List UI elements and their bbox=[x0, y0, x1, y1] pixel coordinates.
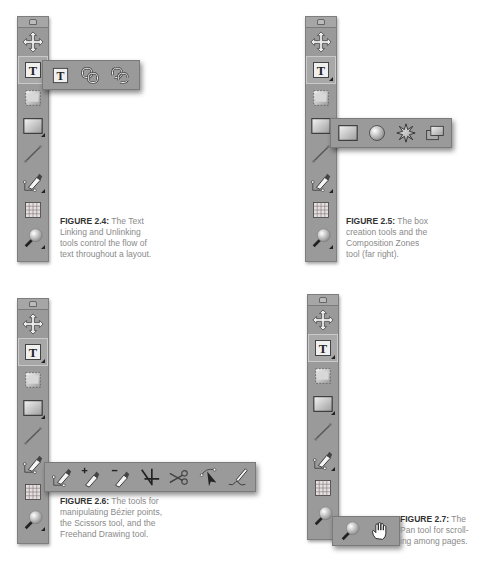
add-point-icon bbox=[80, 466, 102, 488]
scissors-icon bbox=[168, 466, 190, 488]
text-content-icon bbox=[51, 66, 70, 85]
text-t-icon bbox=[23, 342, 43, 362]
item-tool[interactable] bbox=[308, 306, 338, 334]
starburst-icon bbox=[396, 123, 416, 143]
select-point-icon bbox=[198, 466, 220, 488]
rectangle-icon bbox=[310, 115, 332, 137]
table-grid-icon bbox=[23, 482, 43, 502]
item-tool[interactable] bbox=[306, 28, 336, 56]
text-content-tool[interactable] bbox=[306, 56, 336, 84]
caption-text: tools control the flow of bbox=[60, 238, 147, 248]
table-tool[interactable] bbox=[308, 474, 338, 502]
figure-label: FIGURE 2.7: bbox=[400, 514, 449, 524]
line-icon bbox=[22, 143, 44, 165]
caption-text: The box bbox=[397, 216, 428, 226]
table-grid-icon bbox=[311, 200, 331, 220]
item-tool[interactable] bbox=[18, 310, 48, 338]
line-tool[interactable] bbox=[308, 418, 338, 446]
table-grid-icon bbox=[313, 478, 333, 498]
rectangle-box-flyout-tool[interactable] bbox=[335, 120, 360, 146]
text-linking-tool[interactable] bbox=[77, 62, 103, 88]
box-tools-flyout bbox=[330, 118, 452, 148]
figure-caption: FIGURE 2.4: The Text Linking and Unlinki… bbox=[60, 216, 180, 260]
palette-grip[interactable] bbox=[18, 299, 48, 310]
table-tool[interactable] bbox=[18, 196, 48, 224]
rectangle-box-tool[interactable] bbox=[18, 394, 48, 422]
palette-grip[interactable] bbox=[308, 295, 338, 306]
caption-text: ing among pages. bbox=[400, 536, 468, 546]
line-tool[interactable] bbox=[18, 422, 48, 450]
text-unlinking-icon bbox=[110, 65, 130, 85]
bezier-pen-tool[interactable] bbox=[308, 446, 338, 474]
zoom-tool[interactable] bbox=[18, 224, 48, 252]
delete-point-tool[interactable] bbox=[108, 464, 133, 490]
tools-palette bbox=[17, 298, 49, 544]
figure-label: FIGURE 2.6: bbox=[60, 496, 109, 506]
caption-text: Linking and Unlinking bbox=[60, 227, 141, 237]
freehand-drawing-icon bbox=[227, 466, 249, 488]
bezier-pen-flyout-tool[interactable] bbox=[49, 464, 74, 490]
picture-content-tool[interactable] bbox=[18, 366, 48, 394]
convert-point-tool[interactable] bbox=[137, 464, 162, 490]
tools-palette bbox=[307, 294, 339, 540]
text-unlinking-tool[interactable] bbox=[107, 62, 133, 88]
oval-box-icon bbox=[367, 123, 387, 143]
figure-label: FIGURE 2.5: bbox=[346, 216, 395, 226]
zoom-flyout-tool[interactable] bbox=[337, 518, 363, 544]
picture-content-tool[interactable] bbox=[308, 362, 338, 390]
text-tools-flyout bbox=[42, 60, 140, 90]
palette-grip[interactable] bbox=[306, 17, 336, 28]
line-tool[interactable] bbox=[18, 140, 48, 168]
bezier-pen-tool[interactable] bbox=[306, 168, 336, 196]
scissors-tool[interactable] bbox=[167, 464, 192, 490]
caption-text: tool (far right). bbox=[346, 249, 399, 259]
bezier-pen-tool[interactable] bbox=[18, 168, 48, 196]
rectangle-box-icon bbox=[337, 122, 359, 144]
flyout-indicator bbox=[331, 411, 335, 415]
picture-box-icon bbox=[312, 365, 334, 387]
caption-text: The tools for bbox=[111, 496, 158, 506]
picture-content-tool[interactable] bbox=[306, 84, 336, 112]
pan-tool[interactable] bbox=[367, 518, 393, 544]
zoom-tool[interactable] bbox=[18, 506, 48, 534]
pen-icon bbox=[22, 453, 44, 475]
caption-text: text throughout a layout. bbox=[60, 249, 151, 259]
bezier-tools-flyout bbox=[44, 462, 256, 492]
text-t-icon bbox=[23, 60, 43, 80]
text-t-icon bbox=[313, 338, 333, 358]
text-content-flyout-tool[interactable] bbox=[47, 62, 73, 88]
select-point-tool[interactable] bbox=[196, 464, 221, 490]
flyout-indicator bbox=[41, 415, 45, 419]
move-arrows-icon bbox=[22, 313, 44, 335]
flyout-indicator bbox=[329, 77, 333, 81]
starburst-tool[interactable] bbox=[393, 120, 418, 146]
rectangle-box-tool[interactable] bbox=[18, 112, 48, 140]
text-content-tool[interactable] bbox=[18, 338, 48, 366]
magnifier-icon bbox=[312, 505, 334, 527]
line-icon bbox=[310, 143, 332, 165]
rectangle-box-tool[interactable] bbox=[308, 390, 338, 418]
table-grid-icon bbox=[23, 200, 43, 220]
composition-zones-tool[interactable] bbox=[422, 120, 447, 146]
text-t-icon bbox=[311, 60, 331, 80]
figure-caption: FIGURE 2.6: The tools for manipulating B… bbox=[60, 496, 200, 540]
zoom-tool[interactable] bbox=[306, 224, 336, 252]
line-icon bbox=[312, 421, 334, 443]
palette-grip[interactable] bbox=[18, 17, 48, 28]
caption-text: Freehand Drawing tool. bbox=[60, 529, 148, 539]
bezier-pen-icon bbox=[51, 466, 73, 488]
flyout-indicator bbox=[329, 245, 333, 249]
figure-caption: FIGURE 2.5: The box creation tools and t… bbox=[346, 216, 466, 260]
caption-text: The bbox=[451, 514, 466, 524]
table-tool[interactable] bbox=[306, 196, 336, 224]
oval-box-tool[interactable] bbox=[364, 120, 389, 146]
caption-text: Pan tool for scroll- bbox=[400, 525, 469, 535]
freehand-drawing-tool[interactable] bbox=[226, 464, 251, 490]
add-point-tool[interactable] bbox=[78, 464, 103, 490]
convert-point-icon bbox=[139, 466, 161, 488]
move-arrows-icon bbox=[22, 31, 44, 53]
item-tool[interactable] bbox=[18, 28, 48, 56]
caption-text: the Scissors tool, and the bbox=[60, 518, 155, 528]
flyout-indicator bbox=[41, 189, 45, 193]
text-content-tool[interactable] bbox=[308, 334, 338, 362]
